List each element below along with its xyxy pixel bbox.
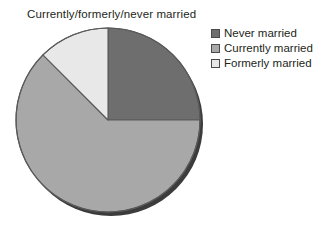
pie-chart-svg <box>12 24 212 224</box>
legend-label-never-married: Never married <box>224 26 297 40</box>
legend-item-currently-married: Currently married <box>211 41 313 55</box>
legend-swatch-never-married <box>211 29 220 38</box>
legend-label-formerly-married: Formerly married <box>224 56 312 70</box>
chart-legend: Never married Currently married Formerly… <box>211 26 313 70</box>
pie-slice-group <box>16 28 200 212</box>
legend-item-never-married: Never married <box>211 26 313 40</box>
pie-slice-never-married <box>108 28 200 120</box>
legend-label-currently-married: Currently married <box>224 41 313 55</box>
legend-item-formerly-married: Formerly married <box>211 56 313 70</box>
pie-chart-figure: Currently/formerly/never married Never m… <box>0 0 329 245</box>
pie-chart-plot-area <box>12 24 212 224</box>
chart-title: Currently/formerly/never married <box>27 8 196 20</box>
legend-swatch-currently-married <box>211 44 220 53</box>
legend-swatch-formerly-married <box>211 59 220 68</box>
